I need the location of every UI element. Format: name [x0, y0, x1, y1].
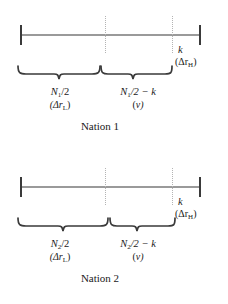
axis-divider-middle — [105, 168, 107, 205]
brace-right — [110, 218, 175, 231]
segment-label-right: N1/2 − k (v) — [100, 86, 176, 111]
panel-nation-1: k (ΔrH) N1/2 (ΔrL) N1/2 − k (v) Nation — [0, 0, 228, 152]
brace-left — [18, 218, 108, 231]
segment-left-sub: (ΔrL) — [22, 99, 98, 111]
endpoint-label-k: k — [175, 196, 227, 208]
endpoint-label-k: k — [175, 44, 227, 56]
panel-nation-2: k (ΔrH) N2/2 (ΔrL) N2/2 − k (v) Nation — [0, 152, 228, 304]
segment-label-left: N1/2 (ΔrL) — [22, 86, 98, 111]
segment-right-main: N2/2 − k — [100, 238, 176, 251]
segment-right-main: N1/2 − k — [100, 86, 176, 99]
axis-divider-right — [172, 16, 174, 53]
axis-divider-right — [172, 168, 174, 205]
segment-left-main: N1/2 — [22, 86, 98, 99]
segment-label-right: N2/2 − k (v) — [100, 238, 176, 263]
axis-tick-left — [20, 177, 22, 197]
caption-nation-1: Nation 1 — [0, 120, 200, 132]
segment-labels-nation-1: N1/2 (ΔrL) N1/2 − k (v) — [0, 86, 228, 120]
segment-right-sub: (v) — [100, 251, 176, 263]
figure-root: k (ΔrH) N1/2 (ΔrL) N1/2 − k (v) Nation — [0, 0, 228, 304]
axis-tick-right — [199, 177, 201, 197]
brace-left — [18, 66, 100, 79]
segment-left-sub: (ΔrL) — [22, 251, 98, 263]
caption-nation-2: Nation 2 — [0, 272, 200, 284]
axis-tick-left — [20, 25, 22, 45]
segment-labels-nation-2: N2/2 (ΔrL) N2/2 − k (v) — [0, 238, 228, 272]
segment-left-main: N2/2 — [22, 238, 98, 251]
axis-divider-middle — [105, 16, 107, 53]
axis-nation-2: k (ΔrH) — [0, 152, 228, 212]
segment-label-left: N2/2 (ΔrL) — [22, 238, 98, 263]
segment-right-sub: (v) — [100, 99, 176, 111]
brace-right — [101, 66, 172, 79]
axis-nation-1: k (ΔrH) — [0, 0, 228, 60]
axis-tick-right — [199, 25, 201, 45]
